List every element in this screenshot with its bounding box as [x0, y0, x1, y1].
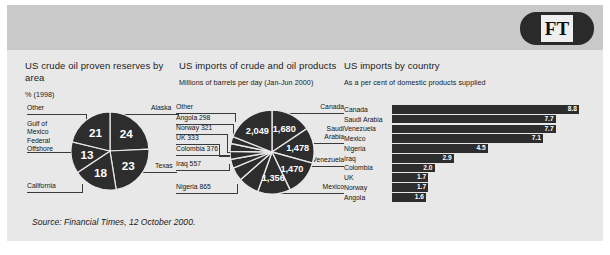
bar-row: Mexico7.1: [344, 134, 579, 143]
bar-track: 7.1: [392, 134, 579, 143]
bar-category-label: Venezuela: [344, 125, 392, 132]
imports-label-colombia: Colombia 376: [176, 145, 218, 153]
reserves-label-alaska: Alaska: [151, 104, 171, 112]
imports-volume-pie-chart: Other Angola 298 Norway 321 UK 333 Colom…: [172, 100, 347, 205]
header-band: [7, 5, 603, 50]
bar-value-label: 4.5: [476, 144, 487, 153]
bar-value-label: 1.6: [415, 193, 426, 202]
bar-track: 1.7: [392, 173, 579, 182]
bar-track: 2.9: [392, 154, 579, 163]
panel-reserves: US crude oil proven reserves by area % (…: [25, 60, 180, 99]
source-suffix: , 12 October 2000.: [124, 217, 195, 227]
chart-panel: FT US crude oil proven reserves by area …: [7, 5, 603, 241]
bar-value-label: 1.7: [417, 183, 428, 192]
panel-reserves-title: US crude oil proven reserves by area: [25, 60, 165, 84]
imports-label-norway: Norway 321: [176, 124, 212, 132]
bar-row: Colombia2.0: [344, 164, 579, 173]
reserves-pie-svg: 2423181321: [71, 112, 149, 190]
reserves-label-california: California: [27, 182, 56, 190]
bar-category-label: Canada: [344, 106, 392, 113]
leader-colombia-1: [176, 155, 238, 156]
bar-value-label: 7.7: [544, 115, 555, 124]
source-note: Source: Financial Times, 12 October 2000…: [32, 217, 195, 227]
bar: [392, 105, 579, 114]
imports-volume-pie-svg: 1,6801,4781,4701,3562,049: [230, 110, 314, 194]
bar-track: 1.6: [392, 193, 579, 202]
pie-slice-value: 1,478: [286, 143, 309, 153]
imports-percent-bar-chart: Canada8.8Saudi Arabia7.7Venezuela7.7Mexi…: [344, 105, 579, 203]
bar-category-label: Iraq: [344, 155, 392, 162]
panel-imports-volume: US imports of crude and oil products Mil…: [179, 60, 349, 87]
bar-category-label: UK: [344, 174, 392, 181]
leader-norway-2: [227, 134, 228, 152]
bar-row: UK1.7: [344, 173, 579, 182]
bar-category-label: Nigeria: [344, 145, 392, 152]
bar-value-label: 7.1: [532, 134, 543, 143]
bar-category-label: Saudi Arabia: [344, 116, 392, 123]
bar: [392, 115, 556, 124]
bar-track: 2.0: [392, 164, 579, 173]
bar-track: 1.7: [392, 183, 579, 192]
bar-row: Norway1.7: [344, 183, 579, 192]
reserves-label-other: Other: [27, 104, 44, 112]
bar-row: Venezuela7.7: [344, 125, 579, 134]
panel-imports-volume-subtitle: Millions of barrels per day (Jan-Jun 200…: [179, 78, 349, 87]
bar-row: Nigeria4.5: [344, 144, 579, 153]
imports-label-uk: UK 333: [176, 134, 199, 142]
imports-label-nigeria: Nigeria 865: [176, 183, 211, 191]
panel-imports-percent-subtitle: As a per cent of domestic products suppl…: [344, 78, 594, 87]
bar-category-label: Colombia: [344, 164, 392, 171]
bar-track: 7.7: [392, 125, 579, 134]
bar: [392, 144, 488, 153]
bar-value-label: 2.9: [442, 154, 453, 163]
reserves-label-gulf: Gulf of Mexico Federal Offshore: [27, 120, 67, 154]
pie-slice-value: 13: [80, 148, 94, 161]
financial-times-logo: FT: [520, 12, 594, 45]
bar-row: Angola1.6: [344, 193, 579, 202]
pie-slice-value: 18: [94, 166, 108, 179]
source-prefix: Source:: [32, 217, 64, 227]
bar-value-label: 1.7: [417, 173, 428, 182]
source-publication: Financial Times: [64, 217, 124, 227]
bar-value-label: 7.7: [544, 125, 555, 134]
panel-imports-percent: US imports by country As a per cent of d…: [344, 60, 594, 87]
bar-row: Iraq2.9: [344, 154, 579, 163]
panel-reserves-subtitle: % (1998): [25, 90, 180, 99]
pie-slice-value: 24: [120, 127, 134, 140]
pie-slice-value: 21: [89, 126, 103, 139]
bar-row: Canada8.8: [344, 105, 579, 114]
screenshot-root: FT US crude oil proven reserves by area …: [0, 0, 610, 255]
ft-logo-text: FT: [541, 15, 573, 42]
bar-row: Saudi Arabia7.7: [344, 115, 579, 124]
bar-track: 7.7: [392, 115, 579, 124]
leader-iraq-1: [176, 170, 230, 171]
bar-value-label: 2.0: [423, 164, 434, 173]
bar: [392, 125, 556, 134]
bar-category-label: Mexico: [344, 135, 392, 142]
pie-slice-value: 1,680: [273, 124, 296, 134]
reserves-pie-chart: Other Gulf of Mexico Federal Offshore Ca…: [25, 100, 185, 200]
bar-value-label: 8.8: [568, 105, 579, 114]
leader-california-1: [27, 192, 83, 193]
pie-slice-value: 23: [122, 159, 136, 172]
pie-slice-value: 2,049: [246, 126, 269, 136]
pie-slice-value: 1,356: [262, 173, 285, 183]
bar-track: 8.8: [392, 105, 579, 114]
bar-track: 4.5: [392, 144, 579, 153]
bar: [392, 134, 543, 143]
bar-category-label: Norway: [344, 184, 392, 191]
reserves-label-texas: Texas: [155, 162, 173, 170]
imports-label-angola: Angola 298: [176, 114, 210, 122]
panel-imports-volume-title: US imports of crude and oil products: [179, 60, 349, 72]
imports-label-other: Other: [176, 103, 193, 111]
leader-nigeria-1: [176, 193, 238, 194]
panel-imports-percent-title: US imports by country: [344, 60, 594, 72]
bar-category-label: Angola: [344, 194, 392, 201]
imports-label-iraq: Iraq 557: [176, 160, 201, 168]
